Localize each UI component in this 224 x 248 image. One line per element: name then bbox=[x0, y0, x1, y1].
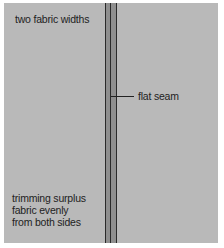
seam-edge-line-left bbox=[105, 3, 106, 243]
label-two-fabric-widths: two fabric widths bbox=[15, 13, 89, 25]
label-trimming-surplus: trimming surplus fabric evenly from both… bbox=[12, 192, 86, 228]
seam-edge-line-right bbox=[116, 3, 117, 243]
seam-stitch-line bbox=[110, 3, 111, 243]
label-flat-seam: flat seam bbox=[138, 90, 179, 102]
fabric-panel: two fabric widths flat seam trimming sur… bbox=[4, 3, 218, 243]
seam-leader-line bbox=[111, 96, 134, 97]
